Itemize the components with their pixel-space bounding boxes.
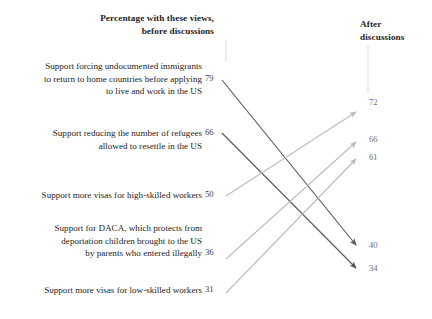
arrow-79-to-40 [222, 80, 356, 245]
arrow-66-to-34 [222, 133, 356, 268]
arrow-31-to-61 [226, 159, 356, 293]
arrow-50-to-72 [226, 112, 356, 196]
arrow-layer [0, 0, 432, 319]
slope-chart: Percentage with these views, before disc… [0, 0, 432, 319]
arrow-36-to-66 [226, 142, 356, 259]
